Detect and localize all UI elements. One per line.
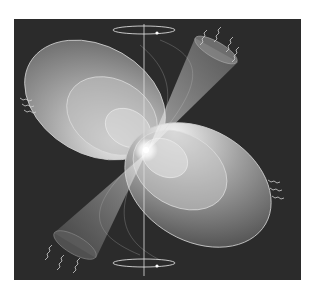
pulsar-diagram [14, 19, 301, 280]
pulsar-illustration [14, 19, 301, 280]
neutron-star-core [134, 138, 158, 162]
